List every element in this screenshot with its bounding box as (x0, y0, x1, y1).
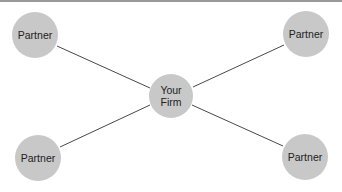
edge-bottom-left (60, 105, 150, 147)
edge-bottom-right (192, 105, 283, 146)
node-partner-bottom-right[interactable]: Partner (282, 134, 328, 180)
node-partner-top-left[interactable]: Partner (12, 12, 58, 58)
partner-label: Partner (288, 151, 323, 163)
node-your-firm[interactable]: Your Firm (149, 74, 193, 118)
your-firm-label-line2: Firm (161, 96, 182, 108)
partner-label: Partner (289, 28, 324, 40)
node-partner-top-right[interactable]: Partner (283, 11, 329, 57)
your-firm-label-line1: Your (160, 84, 182, 96)
edge-top-left (57, 46, 150, 88)
partner-label: Partner (18, 29, 53, 41)
network-diagram: Partner Partner Your Firm Partner Partne… (0, 0, 342, 192)
edge-top-right (193, 45, 284, 87)
partner-label: Partner (21, 152, 56, 164)
node-partner-bottom-left[interactable]: Partner (15, 135, 61, 181)
